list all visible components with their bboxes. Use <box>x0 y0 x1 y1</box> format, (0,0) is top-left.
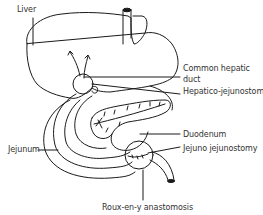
leader-jejuno-jejunostomy <box>148 147 180 153</box>
label-common-hepatic-duct-line1: Common hepatic <box>183 64 250 73</box>
label-jejunum: Jejunum <box>8 145 40 154</box>
label-roux-en-y-anastomosis: Roux-en-y anastomosis <box>102 203 193 212</box>
label-hepatico-jejunostomy: Hepatico-jejunostomy <box>183 87 263 96</box>
stomach-lower <box>150 86 173 110</box>
anastomosis-sutures <box>128 154 148 159</box>
label-duodenum: Duodenum <box>183 130 226 139</box>
roux-en-y-diagram <box>0 0 263 215</box>
distal-jejunum-opening <box>168 180 175 183</box>
pancreas-texture <box>96 102 160 132</box>
leader-hepatico-jejunostomy <box>92 84 180 94</box>
distal-jejunum <box>150 152 174 180</box>
label-common-hepatic-duct-line2: duct <box>183 75 200 84</box>
bile-duct-arrows <box>68 51 90 59</box>
bile-duct-left <box>70 52 80 76</box>
label-liver: Liver <box>17 5 36 14</box>
label-jejuno-jejunostomy: Jejuno jejunostomy <box>183 144 257 153</box>
vessel-opening <box>123 8 131 12</box>
jejuno-jejunostomy-circle <box>125 141 153 169</box>
